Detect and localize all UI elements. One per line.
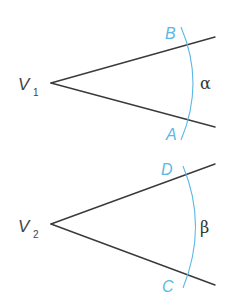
point-label-b: B — [165, 25, 176, 42]
arc-beta — [183, 166, 196, 288]
vertex-label-v2: V — [18, 217, 31, 236]
ray-v1-lower — [51, 83, 215, 127]
point-label-c: C — [162, 278, 174, 295]
ray-v2-lower — [51, 224, 215, 285]
ray-v2-upper — [51, 164, 215, 224]
vertex-subscript-v2: 2 — [33, 229, 39, 240]
ray-v1-upper — [51, 37, 215, 83]
angle-diagram: V 1 B A α V 2 D C β — [0, 0, 234, 305]
point-label-d: D — [161, 161, 173, 178]
angle-v1: V 1 B A α — [18, 25, 215, 143]
angle-v2: V 2 D C β — [18, 161, 215, 295]
angle-label-beta: β — [200, 218, 209, 237]
angle-label-alpha: α — [200, 74, 211, 93]
vertex-label-v1: V — [18, 75, 31, 94]
point-label-a: A — [165, 126, 177, 143]
vertex-subscript-v1: 1 — [33, 87, 39, 98]
